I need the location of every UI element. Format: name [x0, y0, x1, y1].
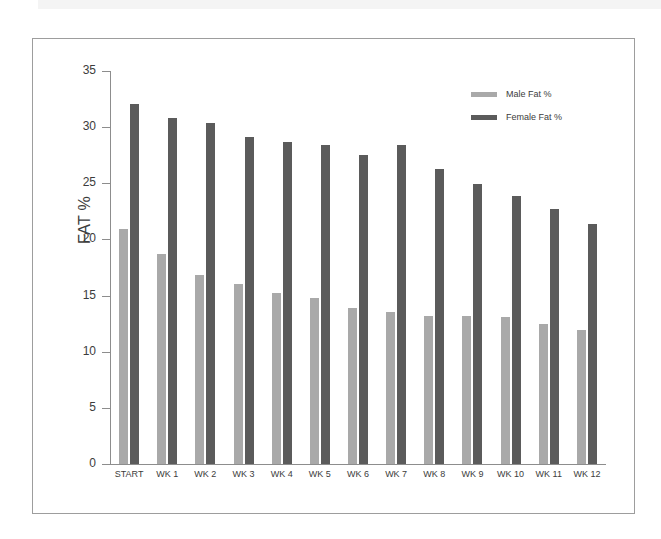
bar-male: [501, 317, 510, 464]
bar-male: [234, 284, 243, 464]
y-axis-tick-mark: [102, 352, 110, 353]
chart-legend: Male Fat %Female Fat %: [471, 89, 562, 135]
y-axis-tick-label: 30: [83, 119, 96, 133]
legend-swatch-icon: [471, 115, 497, 120]
y-axis-tick-label: 35: [83, 63, 96, 77]
y-axis-tick-mark: [102, 296, 110, 297]
y-axis-tick-mark: [102, 408, 110, 409]
y-axis-tick-mark: [102, 127, 110, 128]
bar-female: [397, 145, 406, 464]
y-axis-tick: 20: [102, 239, 110, 240]
bar-male: [310, 298, 319, 464]
bar-female: [283, 142, 292, 464]
y-axis-tick: 5: [102, 408, 110, 409]
bar-female: [168, 118, 177, 464]
y-axis-tick: 10: [102, 352, 110, 353]
x-axis-line: [110, 464, 606, 465]
bar-male: [348, 308, 357, 464]
legend-item: Female Fat %: [471, 112, 562, 122]
bar-male: [462, 316, 471, 464]
y-axis-tick: 35: [102, 71, 110, 72]
bar-female: [321, 145, 330, 464]
y-axis-tick-label: 10: [83, 344, 96, 358]
bar-female: [435, 169, 444, 464]
bar-male: [119, 229, 128, 464]
y-axis-tick-label: 15: [83, 288, 96, 302]
y-axis-tick-label: 5: [89, 400, 96, 414]
bar-female: [588, 224, 597, 464]
x-axis-tick-label: WK 12: [557, 469, 617, 479]
bar-female: [359, 155, 368, 464]
top-gray-band: [38, 0, 661, 9]
y-axis-tick: 0: [102, 464, 110, 465]
y-axis-tick: 25: [102, 183, 110, 184]
y-axis-tick: 15: [102, 296, 110, 297]
bar-female: [245, 137, 254, 464]
bar-male: [424, 316, 433, 464]
y-axis-tick-mark: [102, 71, 110, 72]
bar-female: [550, 209, 559, 464]
bar-male: [157, 254, 166, 464]
chart-figure-card: FAT % 05101520253035 STARTWK 1WK 2WK 3WK…: [32, 38, 635, 514]
bar-female: [512, 196, 521, 464]
y-axis-tick-label: 20: [83, 231, 96, 245]
bar-female: [206, 123, 215, 464]
y-axis-tick-label: 25: [83, 175, 96, 189]
bar-male: [272, 293, 281, 464]
bar-male: [386, 312, 395, 464]
legend-label: Female Fat %: [506, 112, 562, 122]
y-axis-tick-mark: [102, 183, 110, 184]
bar-female: [130, 104, 139, 464]
y-axis-tick-mark: [102, 239, 110, 240]
legend-item: Male Fat %: [471, 89, 562, 99]
bar-male: [577, 330, 586, 464]
y-axis-tick: 30: [102, 127, 110, 128]
y-axis-tick-label: 0: [89, 456, 96, 470]
bar-male: [539, 324, 548, 464]
legend-swatch-icon: [471, 92, 497, 97]
bar-female: [473, 184, 482, 464]
y-axis-tick-mark: [102, 464, 110, 465]
bar-male: [195, 275, 204, 464]
legend-label: Male Fat %: [506, 89, 552, 99]
